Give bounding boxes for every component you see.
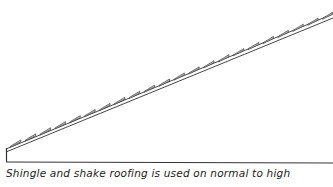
shingle-courses	[10, 12, 333, 147]
roof-diagram	[0, 0, 333, 187]
base-line	[6, 162, 333, 163]
caption-text: Shingle and shake roofing is used on nor…	[6, 167, 333, 179]
roof-deck-line	[6, 18, 333, 152]
